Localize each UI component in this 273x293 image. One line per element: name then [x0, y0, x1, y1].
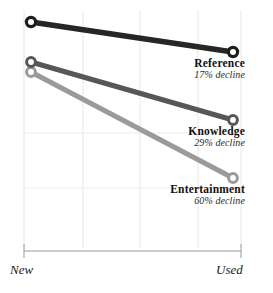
series-annotation-entertainment: Entertainment 60% decline [170, 183, 245, 207]
series-segment-reference [31, 22, 233, 52]
series-marker-reference-new [26, 17, 35, 26]
series-label-reference: Reference [194, 57, 245, 69]
series-marker-knowledge-new [27, 58, 36, 67]
series-delta-reference: 17% decline [194, 70, 245, 81]
axis-label-used: Used [216, 262, 243, 278]
slopegraph-chart: Reference 17% decline Knowledge 29% decl… [0, 0, 273, 293]
series-annotation-reference: Reference 17% decline [194, 57, 245, 81]
series-marker-reference-used [228, 47, 237, 56]
series-marker-knowledge-used [229, 116, 238, 125]
series-annotation-knowledge: Knowledge 29% decline [188, 125, 245, 149]
series-marker-entertainment-used [229, 174, 238, 183]
series-label-knowledge: Knowledge [188, 125, 245, 137]
axis-bottom [24, 244, 241, 258]
series-delta-knowledge: 29% decline [188, 138, 245, 149]
series-line-reference [26, 17, 237, 56]
series-marker-entertainment-new [27, 68, 36, 77]
series-delta-entertainment: 60% decline [170, 196, 245, 207]
axis-label-new: New [10, 262, 33, 278]
series-label-entertainment: Entertainment [170, 183, 245, 195]
